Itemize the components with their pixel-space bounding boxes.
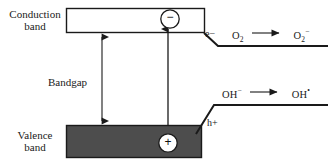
conduction-band-label: Conduction band xyxy=(6,8,64,33)
reaction-top-reactant-subscript: 2 xyxy=(240,35,244,44)
reaction-bottom-reactant: OH xyxy=(222,89,238,100)
conduction-band-label-line1: Conduction xyxy=(6,8,64,20)
reaction-bottom-reactant-charge: − xyxy=(238,86,242,95)
reaction-top-reactant: O xyxy=(232,30,240,41)
electron-minus-sign: − xyxy=(161,10,179,24)
reaction-bottom-label: OH− OH• xyxy=(222,87,310,100)
hole-carrier-charge: + xyxy=(212,117,218,128)
valence-band-label: Valence band xyxy=(6,129,64,154)
electron-carrier-label: e− xyxy=(205,28,215,39)
reaction-bottom-product: OH xyxy=(292,89,308,100)
hole-carrier-label: h+ xyxy=(207,117,218,128)
reaction-top-product-charge: − xyxy=(305,27,309,36)
bandgap-label: Bandgap xyxy=(48,76,87,88)
conduction-band-label-line2: band xyxy=(6,20,64,32)
reaction-bottom-product-charge: • xyxy=(307,86,310,95)
band-diagram-figure: − + Conduction band Valence band Bandgap… xyxy=(0,0,328,165)
hole-plus-sign: + xyxy=(159,135,177,149)
valence-band-box xyxy=(67,126,202,158)
valence-band-label-line2: band xyxy=(6,141,64,153)
valence-band-label-line1: Valence xyxy=(6,129,64,141)
electron-carrier-charge: − xyxy=(209,28,215,39)
reaction-top-label: O2 O2− xyxy=(232,28,310,44)
conduction-band-box xyxy=(67,9,205,33)
